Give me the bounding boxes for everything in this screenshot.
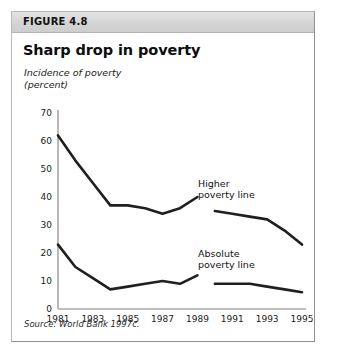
absolute-poverty-line-annotation: Absolute poverty line	[198, 248, 255, 270]
absolute-annotation-line1: Absolute	[198, 248, 255, 259]
higher-annotation-line1: Higher	[198, 178, 255, 189]
y-tick-label: 10	[41, 276, 53, 286]
source-note: Source: World Bank 1997c.	[24, 319, 140, 329]
series-line	[215, 211, 302, 245]
y-tick-label: 30	[41, 220, 53, 230]
x-tick-label: 1987	[151, 314, 174, 324]
chart-series-group	[58, 135, 302, 292]
y-tick-label: 50	[41, 164, 53, 174]
figure-container: FIGURE 4.8 Sharp drop in poverty Inciden…	[11, 11, 315, 342]
y-axis-tick-labels: 010203040506070	[41, 108, 53, 314]
line-chart-svg: 010203040506070 198119831985198719891991…	[12, 12, 316, 343]
x-tick-label: 1991	[221, 314, 244, 324]
absolute-annotation-line2: poverty line	[198, 259, 255, 270]
y-tick-label: 70	[41, 108, 53, 118]
series-line	[58, 245, 197, 290]
y-tick-label: 20	[41, 248, 53, 258]
higher-poverty-line-annotation: Higher poverty line	[198, 178, 255, 200]
higher-annotation-line2: poverty line	[198, 189, 255, 200]
chart-plot-area: 010203040506070 198119831985198719891991…	[12, 12, 316, 343]
y-tick-label: 40	[41, 192, 53, 202]
x-tick-label: 1993	[256, 314, 279, 324]
x-tick-label: 1989	[186, 314, 209, 324]
series-line	[58, 135, 197, 213]
series-line	[215, 284, 302, 292]
y-tick-label: 0	[46, 304, 52, 314]
y-tick-label: 60	[41, 136, 53, 146]
x-tick-label: 1995	[291, 314, 314, 324]
